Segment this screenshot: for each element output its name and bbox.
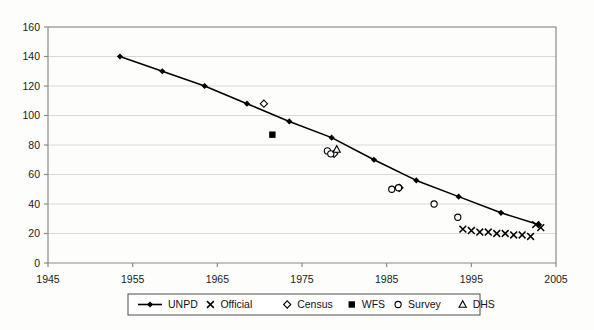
data-point-official bbox=[519, 232, 526, 239]
y-axis-tick-label: 140 bbox=[22, 50, 40, 62]
x-axis-tick-label: 2005 bbox=[544, 273, 568, 285]
data-point-unpd bbox=[286, 118, 292, 124]
data-point-wfs bbox=[269, 131, 275, 137]
data-point-census bbox=[260, 100, 267, 107]
data-point-survey bbox=[431, 201, 437, 207]
x-axis-tick-label: 1955 bbox=[121, 273, 145, 285]
data-point-unpd bbox=[202, 83, 208, 89]
data-point-dhs bbox=[333, 146, 340, 153]
data-point-unpd bbox=[117, 53, 123, 59]
x-axis-tick-label: 1995 bbox=[460, 273, 484, 285]
line-scatter-chart: 0204060801001201401601945195519651975198… bbox=[0, 0, 594, 330]
legend-marker-survey bbox=[395, 301, 401, 307]
data-point-unpd bbox=[159, 68, 165, 74]
data-point-unpd bbox=[498, 210, 504, 216]
data-point-survey bbox=[455, 214, 461, 220]
y-axis-tick-label: 20 bbox=[28, 227, 40, 239]
data-point-unpd bbox=[244, 101, 250, 107]
x-axis-tick-label: 1975 bbox=[290, 273, 314, 285]
legend-label-wfs: WFS bbox=[362, 298, 385, 310]
y-axis-tick-label: 100 bbox=[22, 109, 40, 121]
chart-container: 0204060801001201401601945195519651975198… bbox=[0, 0, 594, 330]
data-point-unpd bbox=[329, 135, 335, 141]
y-axis-tick-label: 160 bbox=[22, 21, 40, 33]
legend-label-official: Official bbox=[220, 298, 252, 310]
data-point-official bbox=[468, 227, 475, 234]
x-axis-tick-label: 1985 bbox=[375, 273, 399, 285]
x-axis-tick-label: 1965 bbox=[206, 273, 230, 285]
data-point-official bbox=[476, 229, 483, 236]
legend-label-survey: Survey bbox=[408, 298, 441, 310]
y-axis-tick-label: 120 bbox=[22, 80, 40, 92]
data-point-survey bbox=[389, 186, 395, 192]
y-axis-tick-label: 80 bbox=[28, 139, 40, 151]
y-axis-tick-label: 60 bbox=[28, 168, 40, 180]
data-point-official bbox=[510, 232, 517, 239]
data-point-unpd bbox=[371, 157, 377, 163]
legend-marker-wfs bbox=[349, 301, 355, 307]
legend-label-dhs: DHS bbox=[473, 298, 495, 310]
series-line-unpd bbox=[120, 57, 539, 225]
data-point-official bbox=[485, 229, 492, 236]
legend-label-census: Census bbox=[297, 298, 333, 310]
data-point-unpd bbox=[456, 194, 462, 200]
data-point-survey bbox=[395, 185, 401, 191]
x-axis-tick-label: 1945 bbox=[36, 273, 60, 285]
y-axis-tick-label: 0 bbox=[34, 257, 40, 269]
legend-label-unpd: UNPD bbox=[168, 298, 198, 310]
data-point-unpd bbox=[413, 177, 419, 183]
data-point-official bbox=[527, 233, 534, 240]
y-axis-tick-label: 40 bbox=[28, 198, 40, 210]
data-point-official bbox=[459, 226, 466, 233]
